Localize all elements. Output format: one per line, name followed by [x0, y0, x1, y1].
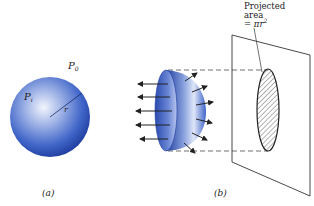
caption-a: (a)	[42, 188, 55, 198]
figure-b: Projected area = πr2 (b)	[136, 1, 310, 198]
projected-area-label: Projected area = πr2	[244, 1, 288, 29]
figure-a: r Pi P0 (a)	[10, 60, 90, 198]
outer-pressure-label: P0	[67, 60, 79, 72]
projected-area	[257, 69, 279, 151]
caption-b: (b)	[214, 188, 227, 198]
pressure-diagram: r Pi P0 (a)	[0, 0, 314, 206]
